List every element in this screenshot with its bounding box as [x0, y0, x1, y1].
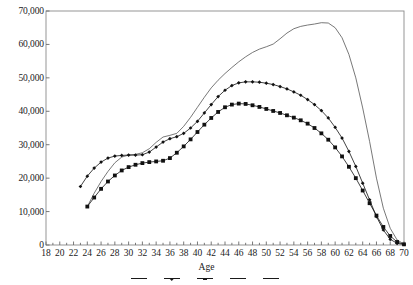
- series-marker-square: [278, 111, 282, 115]
- x-axis-tick-label: 52: [275, 248, 285, 258]
- series-marker-square: [154, 160, 158, 164]
- legend-entry: [230, 278, 249, 279]
- x-axis-tick-label: 64: [358, 248, 368, 258]
- legend-entry: [164, 278, 183, 279]
- x-axis-tick-label: 62: [344, 248, 354, 258]
- x-axis-title: Age: [0, 262, 413, 272]
- legend-entry: [197, 278, 216, 279]
- legend-swatch: [131, 278, 147, 279]
- x-axis-tick-label: 40: [193, 248, 203, 258]
- x-axis-tick-label: 24: [83, 248, 93, 258]
- x-axis-tick-label: 54: [289, 248, 299, 258]
- x-axis-tick-label: 42: [206, 248, 216, 258]
- chart-legend: [0, 278, 413, 285]
- series-marker-square: [258, 105, 262, 109]
- x-axis-tick-label: 66: [372, 248, 382, 258]
- plot-area: [0, 0, 413, 285]
- series-marker-square: [140, 161, 144, 165]
- series-marker-square: [368, 201, 372, 205]
- x-axis-tick-label: 60: [330, 248, 340, 258]
- series-marker-square: [299, 118, 303, 122]
- series-marker-square: [402, 242, 406, 246]
- x-axis-tick-label: 18: [41, 248, 51, 258]
- series-marker-square: [202, 123, 206, 127]
- legend-swatch: [230, 278, 246, 279]
- series-marker-square: [313, 126, 317, 130]
- series-marker-square: [292, 116, 296, 120]
- x-axis-tick-label: 36: [165, 248, 175, 258]
- x-axis-tick-label: 28: [110, 248, 120, 258]
- legend-swatch: [263, 278, 279, 279]
- series-marker-square: [381, 225, 385, 229]
- legend-swatch: [164, 278, 180, 279]
- series-marker-square: [216, 110, 220, 114]
- x-axis-tick-label: 50: [262, 248, 272, 258]
- x-axis-tick-label: 20: [55, 248, 65, 258]
- legend-entry: [131, 278, 150, 279]
- series-marker-square: [388, 234, 392, 238]
- series-marker-square: [251, 103, 255, 107]
- series-marker-square: [196, 130, 200, 134]
- series-marker-square: [361, 189, 365, 193]
- series-marker-square: [168, 156, 172, 160]
- x-axis-tick-label: 68: [385, 248, 395, 258]
- series-marker-square: [127, 165, 131, 169]
- x-axis-tick-label: 30: [124, 248, 134, 258]
- series-marker-square: [306, 122, 310, 126]
- series-marker-square: [106, 180, 110, 184]
- series-marker-square: [354, 176, 358, 180]
- series-marker-square: [319, 131, 323, 135]
- series-marker-square: [175, 151, 179, 155]
- x-axis-tick-label: 32: [138, 248, 148, 258]
- x-axis-tick-label: 34: [151, 248, 161, 258]
- series-marker-square: [85, 205, 89, 209]
- series-marker-square: [161, 159, 165, 163]
- x-axis-tick-label: 56: [303, 248, 313, 258]
- x-axis-tick-label: 38: [179, 248, 189, 258]
- series-marker-square: [189, 137, 193, 141]
- x-axis-tick-label: 58: [317, 248, 327, 258]
- x-axis-tick-label: 48: [248, 248, 258, 258]
- series-marker-square: [92, 196, 96, 200]
- series-marker-square: [209, 116, 213, 120]
- series-marker-square: [395, 240, 399, 244]
- series-marker-square: [99, 187, 103, 191]
- series-marker-square: [147, 160, 151, 164]
- series-marker-square: [223, 105, 227, 109]
- series-marker-square: [113, 174, 117, 178]
- x-axis-tick-label: 46: [234, 248, 244, 258]
- chart-figure: 010,00020,00030,00040,00050,00060,00070,…: [0, 0, 413, 285]
- x-axis-tick-label: 70: [399, 248, 409, 258]
- series-marker-square: [326, 138, 330, 142]
- series-marker-square: [347, 165, 351, 169]
- series-marker-square: [244, 102, 248, 106]
- x-axis-tick-label: 22: [69, 248, 79, 258]
- legend-swatch: [197, 278, 213, 279]
- series-marker-square: [237, 102, 241, 106]
- series-marker-square: [340, 155, 344, 159]
- series-marker-square: [182, 144, 186, 148]
- series-marker-square: [230, 103, 234, 107]
- series-marker-square: [375, 214, 379, 218]
- plot-frame: [46, 11, 404, 245]
- series-marker-square: [264, 107, 268, 111]
- x-axis-tick-label: 26: [96, 248, 106, 258]
- series-marker-square: [271, 109, 275, 113]
- x-axis-tick-label: 44: [220, 248, 230, 258]
- legend-entry: [263, 278, 282, 279]
- series-marker-square: [120, 169, 124, 173]
- series-marker-square: [333, 145, 337, 149]
- x-axis-tick-labels: 1820222426283032343638404244464850525456…: [0, 248, 413, 262]
- series-marker-square: [134, 163, 138, 167]
- series-marker-square: [285, 113, 289, 117]
